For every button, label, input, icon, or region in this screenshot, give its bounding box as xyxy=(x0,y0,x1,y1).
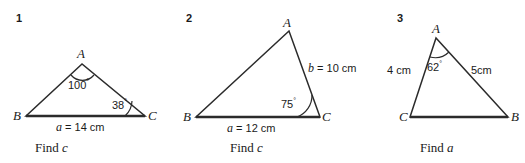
side-measure-right: 5cm xyxy=(471,64,492,76)
triangle-outline xyxy=(196,31,320,117)
angle-value-C: 38 xyxy=(112,99,124,111)
instruction-target: a xyxy=(447,140,454,155)
side-measure-a: a = 12 cm xyxy=(227,122,276,134)
vertex-label-B: B xyxy=(183,110,191,123)
instruction-verb: Find xyxy=(420,140,444,155)
side-value-b: = 10 cm xyxy=(317,62,356,74)
angle-measure-at-C: 38° xyxy=(112,96,127,111)
side-measure-b: b = 10 cm xyxy=(308,62,357,74)
angle-measure-at-A: 100° xyxy=(68,76,89,91)
worksheet-page: 1 A B C 100° 38° a = 14 cm xyxy=(0,0,525,163)
vertex-label-C: C xyxy=(399,110,408,123)
problem-2: 2 A B C b = 10 cm 75° a = 12 cm F xyxy=(175,0,375,163)
side-variable-b: b xyxy=(308,61,314,75)
problem-3: 3 A C B 4 cm 5cm 62° Find a xyxy=(375,0,525,163)
problem-1: 1 A B C 100° 38° a = 14 cm xyxy=(0,0,175,163)
instruction-find-3: Find a xyxy=(420,141,454,155)
vertex-label-C: C xyxy=(322,110,331,123)
side-value-a: = 12 cm xyxy=(236,122,275,134)
side-variable-a: a xyxy=(227,121,233,135)
vertex-label-B: B xyxy=(511,110,519,123)
degree-symbol: ° xyxy=(439,60,442,67)
instruction-verb: Find xyxy=(35,140,59,155)
angle-arc-at-C xyxy=(297,95,312,117)
side-value-a: = 14 cm xyxy=(65,121,104,133)
instruction-target: c xyxy=(62,140,68,155)
instruction-verb: Find xyxy=(230,140,254,155)
angle-value-C: 75 xyxy=(281,98,293,110)
side-measure-left: 4 cm xyxy=(387,64,411,76)
triangle-outline xyxy=(410,38,508,117)
vertex-label-A: A xyxy=(77,47,85,60)
side-variable-a: a xyxy=(56,120,62,134)
degree-symbol: ° xyxy=(86,78,89,85)
degree-symbol: ° xyxy=(124,98,127,105)
angle-measure-at-A: 62° xyxy=(427,58,442,73)
instruction-find-2: Find c xyxy=(230,141,263,155)
angle-value-A: 62 xyxy=(427,61,439,73)
angle-arc-at-A xyxy=(430,52,449,58)
degree-symbol: ° xyxy=(293,97,296,104)
vertex-label-C: C xyxy=(148,109,157,122)
vertex-label-B: B xyxy=(13,109,21,122)
side-measure-a: a = 14 cm xyxy=(56,121,105,133)
instruction-find-1: Find c xyxy=(35,141,68,155)
vertex-label-A: A xyxy=(283,16,291,29)
angle-measure-at-C: 75° xyxy=(281,95,296,110)
instruction-target: c xyxy=(257,140,263,155)
angle-value-A: 100 xyxy=(68,79,86,91)
vertex-label-A: A xyxy=(432,22,440,35)
